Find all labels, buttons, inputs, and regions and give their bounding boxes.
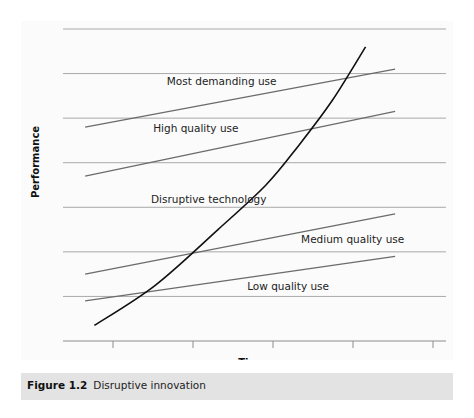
y-axis-title: Performance <box>30 126 41 198</box>
chart-svg: Most demanding useHigh quality useDisrup… <box>21 21 453 360</box>
label-disruptive-technology: Disruptive technology <box>151 193 266 205</box>
series-layer <box>85 47 395 326</box>
label-low-quality-use: Low quality use <box>247 280 329 292</box>
x-axis-title: Time <box>238 357 266 360</box>
label-most-demanding-use: Most demanding use <box>167 75 277 87</box>
series-low-quality-use <box>85 256 395 301</box>
chart-panel: Most demanding useHigh quality useDisrup… <box>21 21 453 360</box>
figure-number: Figure 1.2 <box>27 379 87 391</box>
x-axis <box>63 341 446 348</box>
figure-title: Disruptive innovation <box>93 379 206 391</box>
label-high-quality-use: High quality use <box>153 122 238 134</box>
label-medium-quality-use: Medium quality use <box>301 233 404 245</box>
series-high-quality-use <box>85 111 395 176</box>
grid-layer <box>63 29 446 296</box>
figure-caption: Figure 1.2Disruptive innovation <box>21 373 453 400</box>
